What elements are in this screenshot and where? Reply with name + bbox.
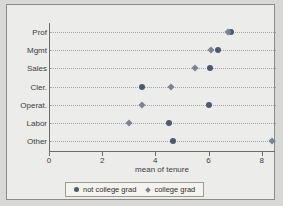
data-point — [192, 65, 199, 72]
x-axis-line — [49, 151, 275, 152]
x-tick-label: 6 — [206, 156, 210, 165]
legend-item: not college grad — [74, 185, 136, 194]
data-point — [139, 84, 145, 90]
data-point — [269, 137, 276, 144]
y-axis-line — [49, 23, 50, 152]
y-axis-label: Prof — [32, 28, 47, 37]
data-point — [206, 102, 212, 108]
circle-marker-icon — [74, 187, 79, 192]
gridline — [50, 105, 276, 106]
chart-legend: not college gradcollege grad — [65, 182, 204, 197]
y-axis-label: Operat. — [20, 100, 47, 109]
x-tick-label: 0 — [47, 156, 51, 165]
gridline — [50, 141, 276, 142]
y-axis-label: Sales — [27, 64, 47, 73]
gridline — [50, 32, 276, 33]
x-tick-label: 8 — [259, 156, 263, 165]
gridline — [50, 68, 276, 69]
gridline — [50, 50, 276, 51]
y-axis-label: Cler. — [31, 82, 47, 91]
y-axis-label: Other — [27, 136, 47, 145]
y-axis-labels: ProfMgmtSalesCler.Operat.LaborOther — [7, 5, 47, 199]
data-point — [168, 83, 175, 90]
gridline — [50, 87, 276, 88]
data-point — [139, 101, 146, 108]
data-point — [125, 119, 132, 126]
y-axis-label: Labor — [27, 118, 47, 127]
chart-frame: ProfMgmtSalesCler.Operat.LaborOther 0246… — [6, 4, 275, 200]
data-point — [208, 47, 215, 54]
gridline — [50, 123, 276, 124]
data-point — [166, 120, 172, 126]
legend-label: college grad — [154, 185, 195, 194]
x-axis-title: mean of tenure — [49, 165, 275, 174]
y-axis-label: Mgmt — [27, 46, 47, 55]
x-tick-label: 4 — [153, 156, 157, 165]
data-point — [215, 47, 221, 53]
legend-item: college grad — [146, 185, 195, 194]
data-point — [170, 138, 176, 144]
data-point — [207, 65, 213, 71]
legend-label: not college grad — [83, 185, 136, 194]
x-tick-label: 2 — [100, 156, 104, 165]
plot-container: ProfMgmtSalesCler.Operat.LaborOther 0246… — [7, 5, 274, 199]
diamond-marker-icon — [146, 187, 152, 193]
